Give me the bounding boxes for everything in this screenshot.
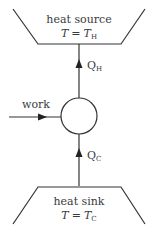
heat-flow-hot-label: QH (87, 59, 102, 73)
heat-source-reservoir: heat source T=TH (13, 9, 145, 44)
heat-source-label: heat source (46, 13, 111, 26)
work-label: work (22, 98, 50, 111)
heat-sink-reservoir: heat sink T=TC (13, 187, 145, 224)
arrowhead-up-icon (76, 148, 83, 157)
heat-flow-cold-label: QC (87, 149, 101, 163)
arrowhead-right-icon (38, 114, 47, 121)
heat-flow-hot-arrow: QH (76, 44, 103, 98)
engine-circle (61, 98, 97, 134)
heat-flow-cold-arrow: QC (76, 134, 102, 186)
heat-sink-label: heat sink (54, 195, 105, 208)
arrowhead-up-icon (76, 59, 83, 68)
heat-source-temperature: T=TH (61, 27, 97, 41)
work-input-arrow: work (9, 98, 61, 121)
heat-pump-diagram: heat source T=TH QH work QC heat sink T=… (0, 0, 156, 230)
heat-sink-temperature: T=TC (61, 209, 96, 223)
